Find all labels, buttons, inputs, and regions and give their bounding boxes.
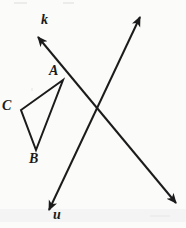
line-label-k: k bbox=[41, 13, 48, 27]
line-u bbox=[49, 17, 140, 210]
vertex-label-c: C bbox=[2, 99, 11, 113]
vertex-label-b: B bbox=[29, 152, 38, 166]
geometry-figure: k u A B C bbox=[0, 0, 186, 228]
vertex-label-a: A bbox=[49, 64, 58, 78]
line-k bbox=[38, 37, 176, 203]
line-label-u: u bbox=[53, 208, 61, 222]
triangle-abc bbox=[21, 80, 63, 150]
figure-canvas bbox=[0, 0, 186, 228]
